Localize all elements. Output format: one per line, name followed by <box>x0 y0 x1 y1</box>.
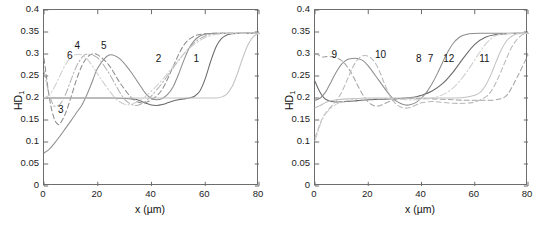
y-tick-label: 0.4 <box>272 4 310 14</box>
y-tick-label: 0 <box>272 180 310 190</box>
y-tick-label: 0.05 <box>272 158 310 168</box>
data-curve-8 <box>315 33 528 105</box>
x-axis-label-right: x (µm) <box>405 203 435 215</box>
data-curve-7 <box>315 33 528 102</box>
y-tick-label: 0.3 <box>1 48 39 58</box>
figure-root: 00.050.10.150.20.250.30.350.4020406080 1… <box>0 0 540 225</box>
data-curve-12 <box>315 33 528 140</box>
curve-number-label-6: 6 <box>67 51 73 61</box>
x-tick-label: 20 <box>91 189 102 199</box>
y-tick-label: 0.1 <box>272 136 310 146</box>
curve-number-label-1: 1 <box>193 54 199 64</box>
curve-number-label-5: 5 <box>101 41 107 51</box>
y-axis-label-right: HD1 <box>283 91 297 110</box>
y-axis-label-sub-right: 1 <box>288 91 297 95</box>
x-tick-label: 20 <box>362 189 373 199</box>
y-axis-label-left: HD1 <box>12 91 26 110</box>
curve-number-label-10: 10 <box>375 50 386 60</box>
curve-number-label-3: 3 <box>58 105 64 115</box>
x-tick-label: 60 <box>468 189 479 199</box>
y-tick-label: 0.25 <box>1 70 39 80</box>
y-tick-label: 0.05 <box>1 158 39 168</box>
y-axis-label-base-left: HD <box>12 95 24 110</box>
x-tick-label: 0 <box>40 189 45 199</box>
x-tick-label: 0 <box>311 189 316 199</box>
curve-number-label-4: 4 <box>75 41 81 51</box>
curve-number-label-8: 8 <box>416 54 422 64</box>
curves-right <box>315 10 528 186</box>
data-curve-11 <box>315 33 528 107</box>
y-axis-label-sub-left: 1 <box>17 91 26 95</box>
data-curve-2 <box>44 33 259 153</box>
x-tick-label: 40 <box>415 189 426 199</box>
y-tick-label: 0.1 <box>1 136 39 146</box>
y-tick-label: 0.35 <box>272 26 310 36</box>
x-tick-label: 60 <box>199 189 210 199</box>
y-tick-label: 0.15 <box>272 114 310 124</box>
y-tick-label: 0.3 <box>272 48 310 58</box>
y-tick-label: 0.15 <box>1 114 39 124</box>
x-tick-label: 80 <box>522 189 533 199</box>
curve-number-label-12: 12 <box>443 54 454 64</box>
curve-number-label-2: 2 <box>156 54 162 64</box>
x-axis-label-left: x (µm) <box>135 203 165 215</box>
chart-panel-right: 00.050.10.150.20.250.30.350.4020406080 7… <box>270 0 540 225</box>
x-tick-label: 80 <box>253 189 264 199</box>
curve-number-label-7: 7 <box>428 54 434 64</box>
plot-area-right <box>314 9 527 185</box>
y-axis-label-base-right: HD <box>283 95 295 110</box>
chart-panel-left: 00.050.10.150.20.250.30.350.4020406080 1… <box>0 0 270 225</box>
x-tick-label: 40 <box>145 189 156 199</box>
y-tick-label: 0.4 <box>1 4 39 14</box>
data-curve-10 <box>315 33 528 137</box>
y-tick-label: 0 <box>1 180 39 190</box>
curves-left <box>44 10 259 186</box>
y-tick-label: 0.25 <box>272 70 310 80</box>
plot-area-left <box>43 9 258 185</box>
y-tick-label: 0.35 <box>1 26 39 36</box>
curve-number-label-9: 9 <box>331 50 337 60</box>
curve-number-label-11: 11 <box>479 54 489 64</box>
